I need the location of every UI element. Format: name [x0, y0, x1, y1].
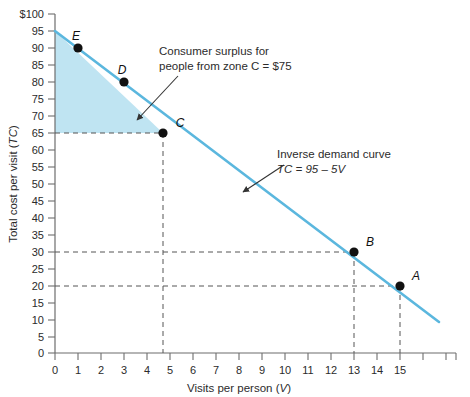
data-points: [73, 43, 404, 290]
y-tick-label: 35: [32, 229, 44, 241]
y-tick-label: 55: [32, 161, 44, 173]
y-axis-title-plain: Total cost per visit (: [7, 144, 19, 243]
y-tick-label: 95: [32, 25, 44, 37]
inverse-demand-curve-chart: $100 95 90 85 80 75 70 65 60 55 50 45 40…: [0, 0, 470, 397]
y-tick-label: 70: [32, 110, 44, 122]
x-tick-label: 11: [302, 364, 313, 376]
x-tick-label: 1: [75, 364, 81, 376]
data-point-label-B: B: [366, 235, 374, 249]
y-tick-label: 80: [32, 76, 44, 88]
x-tick-label: 6: [190, 364, 196, 376]
data-point-label-E: E: [72, 29, 81, 43]
inverse-demand-line: [55, 31, 439, 322]
y-tick-label: 40: [32, 212, 44, 224]
consumer-surplus-annotation-line1: Consumer surplus for: [159, 45, 269, 57]
data-point-label-C: C: [176, 116, 185, 130]
data-point-D[interactable]: [119, 77, 128, 86]
x-axis-title: Visits per person (V): [187, 382, 291, 394]
y-tick-label: 30: [32, 246, 44, 258]
data-point-C[interactable]: [158, 128, 167, 137]
x-tick-label: 13: [348, 364, 360, 376]
x-tick-label: 10: [279, 364, 291, 376]
y-tick-label: 90: [32, 42, 44, 54]
inverse-demand-annotation-line1: Inverse demand curve: [277, 148, 391, 160]
y-axis-ticks: [48, 14, 55, 353]
y-tick-label: 20: [32, 280, 44, 292]
y-tick-label: 85: [32, 59, 44, 71]
x-axis-title-plain: Visits per person (: [187, 382, 280, 394]
y-tick-label: 10: [32, 314, 44, 326]
x-tick-label: 5: [167, 364, 173, 376]
x-tick-label: 7: [213, 364, 219, 376]
data-point-label-D: D: [118, 63, 127, 77]
y-tick-label: 50: [32, 178, 44, 190]
data-point-A[interactable]: [395, 281, 404, 290]
x-tick-label: 15: [394, 364, 406, 376]
x-tick-label: 4: [144, 364, 150, 376]
inverse-demand-annotation-equation: TC = 95 – 5V: [277, 163, 346, 175]
y-tick-label: 60: [32, 144, 44, 156]
y-tick-label: 65: [32, 127, 44, 139]
x-tick-label: 8: [236, 364, 242, 376]
consumer-surplus-region: [55, 31, 163, 133]
y-tick-label: 75: [32, 93, 44, 105]
x-tick-label: 3: [121, 364, 127, 376]
y-axis-title: Total cost per visit (TC): [7, 125, 19, 243]
y-tick-label: 15: [32, 297, 44, 309]
data-point-B[interactable]: [349, 247, 358, 256]
consumer-surplus-annotation-line2: people from zone C = $75: [159, 60, 292, 72]
y-axis-title-close: ): [7, 125, 19, 129]
x-axis-tick-labels: 0 1 2 3 4 5 6 7 8 9 10 11 12 13 14 15: [52, 364, 406, 376]
data-point-E[interactable]: [73, 43, 82, 52]
y-tick-label: 45: [32, 195, 44, 207]
data-point-label-A: A: [411, 269, 420, 283]
y-axis-title-variable: TC: [7, 128, 19, 144]
y-axis-tick-labels: $100 95 90 85 80 75 70 65 60 55 50 45 40…: [20, 8, 44, 359]
y-tick-label: 0: [38, 347, 44, 359]
x-tick-label: 12: [325, 364, 337, 376]
consumer-surplus-annotation: Consumer surplus for people from zone C …: [159, 45, 292, 72]
inverse-demand-annotation: Inverse demand curve TC = 95 – 5V: [277, 148, 391, 175]
x-axis-ticks: [55, 353, 456, 360]
guide-lines: [55, 133, 400, 353]
chart-figure: $100 95 90 85 80 75 70 65 60 55 50 45 40…: [0, 0, 470, 397]
x-tick-label: 14: [371, 364, 383, 376]
y-tick-label: 25: [32, 263, 44, 275]
x-tick-label: 2: [98, 364, 104, 376]
x-tick-label: 0: [52, 364, 58, 376]
y-tick-label: $100: [20, 8, 44, 20]
x-axis-title-close: ): [287, 382, 291, 394]
y-tick-label: 5: [38, 331, 44, 343]
x-tick-label: 9: [259, 364, 265, 376]
